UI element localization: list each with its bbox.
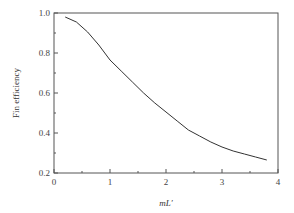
x-tick-label: 0 [52,177,57,187]
x-tick-label: 3 [220,177,225,187]
y-tick-label: 0.8 [39,48,51,58]
y-axis-label: Fin efficiency [11,67,21,118]
efficiency-curve [65,17,267,160]
x-tick-labels: 01234 [52,177,281,187]
y-tick-label: 0.2 [39,168,50,178]
x-tick-label: 2 [164,177,169,187]
y-tick-label: 0.6 [39,88,51,98]
y-tick-label: 0.4 [39,128,51,138]
ticks [54,13,278,173]
plot-frame [54,13,278,173]
x-tick-label: 4 [276,177,281,187]
chart: 01234 0.20.40.60.81.0 mL′ Fin efficiency [0,0,294,213]
x-tick-label: 1 [108,177,113,187]
x-axis-label: mL′ [159,198,174,208]
y-tick-label: 1.0 [39,8,51,18]
y-tick-labels: 0.20.40.60.81.0 [39,8,51,178]
